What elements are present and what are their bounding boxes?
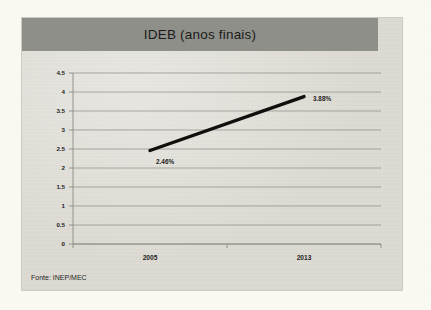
x-tick-label: 2005 [143,254,158,261]
gridlines [73,73,381,244]
data-point-label: 2.46% [156,158,174,165]
data-point-label: 3.88% [313,95,331,102]
y-tick-label: 1 [62,202,66,209]
y-tick-label: 2.5 [56,145,65,152]
data-series-line [150,97,304,151]
chart-title: IDEB (anos finais) [144,27,256,42]
data-point-labels: 2.46%3.88% [156,95,331,165]
y-tick-label: 4.5 [56,69,65,76]
y-tick-label: 1.5 [56,183,65,190]
y-axis-tick-labels: 00.511.522.533.544.5 [56,69,65,247]
source-note: Fonte: INEP/MEC [31,274,87,281]
series-line [150,97,304,151]
line-chart-svg: 00.511.522.533.544.5 20052013 2.46%3.88% [22,51,402,290]
y-tick-label: 3.5 [56,107,65,114]
chart-title-band: IDEB (anos finais) [22,18,378,51]
y-tick-label: 4 [62,88,66,95]
scanned-page: IDEB (anos finais) 00.511.522.533.544.5 … [0,0,431,310]
x-axis-tick-labels: 20052013 [143,254,312,261]
plot-area: 00.511.522.533.544.5 20052013 2.46%3.88% [22,51,402,290]
y-tick-label: 3 [62,126,66,133]
y-tick-label: 0.5 [56,221,65,228]
x-tick-label: 2013 [297,254,312,261]
y-tick-label: 0 [62,240,66,247]
y-tick-label: 2 [62,164,66,171]
chart-axes [69,73,381,248]
chart-card: IDEB (anos finais) 00.511.522.533.544.5 … [22,18,402,290]
